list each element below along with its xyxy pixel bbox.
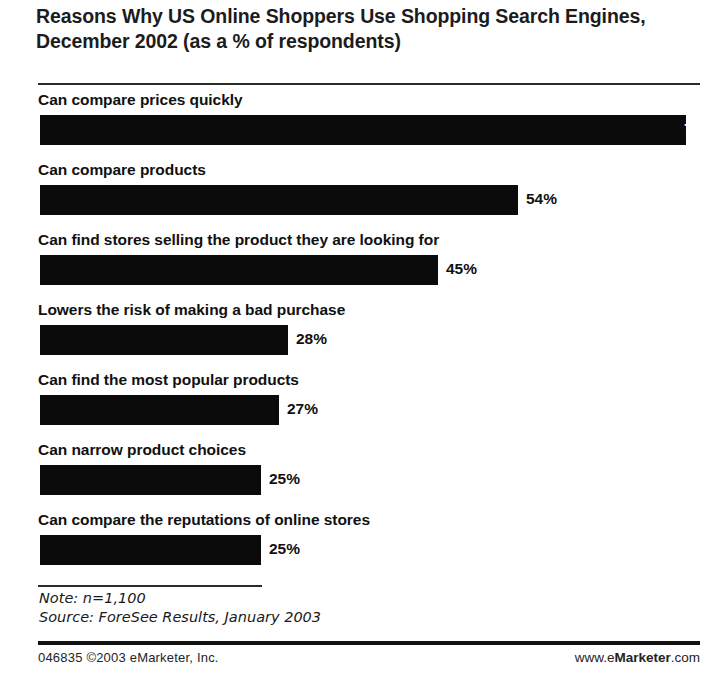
website-prefix: www.e [575,650,615,665]
bar-category-label: Can find the most popular products [38,370,299,389]
bar [40,185,518,215]
footer-divider [38,641,700,645]
bar-track: 45% [40,255,723,285]
bar [40,535,261,565]
bar-value-label: 27% [287,400,318,418]
bar-track: 73% [40,115,723,145]
website-suffix: .com [671,650,700,665]
bar-row: Can compare prices quickly73% [0,90,723,160]
bar-row: Can compare products54% [0,160,723,230]
bar-row: Can narrow product choices25% [0,440,723,510]
bar-value-label: 25% [269,470,300,488]
title-divider [38,83,700,85]
note-sample-size: Note: n=1,100 [39,589,321,608]
copyright-text: 046835 ©2003 eMarketer, Inc. [38,650,219,665]
page-title: Reasons Why US Online Shoppers Use Shopp… [36,4,666,53]
bar-value-label: 54% [526,190,557,208]
bar-row: Can compare the reputations of online st… [0,510,723,580]
website-text: www.eMarketer.com [575,650,700,665]
bar-category-label: Can compare the reputations of online st… [38,510,370,529]
bar-category-label: Can find stores selling the product they… [38,230,439,249]
bar [40,325,288,355]
bar [40,395,279,425]
bar [40,115,686,145]
bar-value-label: 45% [446,260,477,278]
bar-category-label: Can compare products [38,160,206,179]
bar [40,255,438,285]
bar-row: Lowers the risk of making a bad purchase… [0,300,723,370]
bar-value-label: 73% [684,120,715,138]
notes-block: Note: n=1,100 Source: ForeSee Results, J… [39,589,321,627]
bar-value-label: 25% [269,540,300,558]
bar [40,465,261,495]
bar-track: 25% [40,535,723,565]
bar-category-label: Can compare prices quickly [38,90,243,109]
bar-track: 54% [40,185,723,215]
website-brand: Marketer [614,650,670,665]
bar-row: Can find stores selling the product they… [0,230,723,300]
bar-row: Can find the most popular products27% [0,370,723,440]
chart-figure: Reasons Why US Online Shoppers Use Shopp… [0,0,723,674]
bar-category-label: Lowers the risk of making a bad purchase [38,300,345,319]
bar-category-label: Can narrow product choices [38,440,246,459]
notes-divider [38,585,262,587]
bar-rows: Can compare prices quickly73%Can compare… [0,90,723,580]
bar-track: 25% [40,465,723,495]
note-source: Source: ForeSee Results, January 2003 [39,608,321,627]
bar-value-label: 28% [296,330,327,348]
bar-track: 28% [40,325,723,355]
bar-track: 27% [40,395,723,425]
